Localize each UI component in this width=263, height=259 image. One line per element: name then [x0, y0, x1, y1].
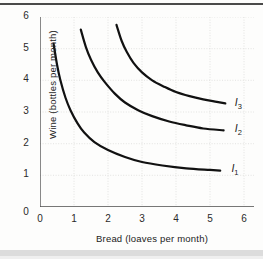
y-tick-label-0: 0 — [19, 206, 33, 217]
indifference-curve-i1 — [54, 44, 221, 171]
curve-label-i2: I2 — [235, 122, 242, 137]
curve-label-i3: I3 — [235, 96, 242, 111]
x-tick-label-6: 6 — [237, 213, 251, 224]
x-tick-label-4: 4 — [169, 213, 183, 224]
x-tick-label-0: 0 — [33, 213, 47, 224]
indifference-curve-i3 — [117, 25, 226, 104]
top-divider — [0, 3, 263, 5]
curve-label-i1: I1 — [231, 162, 238, 177]
curves-group — [54, 25, 226, 171]
x-tick-label-1: 1 — [67, 213, 81, 224]
y-tick-label-3: 3 — [19, 105, 33, 116]
x-tick-label-3: 3 — [135, 213, 149, 224]
x-tick-label-2: 2 — [101, 213, 115, 224]
x-tick-label-5: 5 — [203, 213, 217, 224]
plot-area: 6 5 4 3 2 1 0 0 1 2 3 4 5 6 I1 I2 I3 Win… — [40, 17, 254, 207]
y-tick-label-5: 5 — [19, 42, 33, 53]
y-axis-title: Wine (bottles per month) — [47, 10, 58, 160]
y-tick-label-1: 1 — [19, 168, 33, 179]
y-tick-label-4: 4 — [19, 73, 33, 84]
y-tick-label-6: 6 — [19, 10, 33, 21]
chart-page: 6 5 4 3 2 1 0 0 1 2 3 4 5 6 I1 I2 I3 Win… — [0, 0, 263, 259]
x-axis-title: Bread (loaves per month) — [96, 233, 208, 244]
y-tick-label-2: 2 — [19, 137, 33, 148]
indifference-curves-svg — [40, 17, 254, 207]
